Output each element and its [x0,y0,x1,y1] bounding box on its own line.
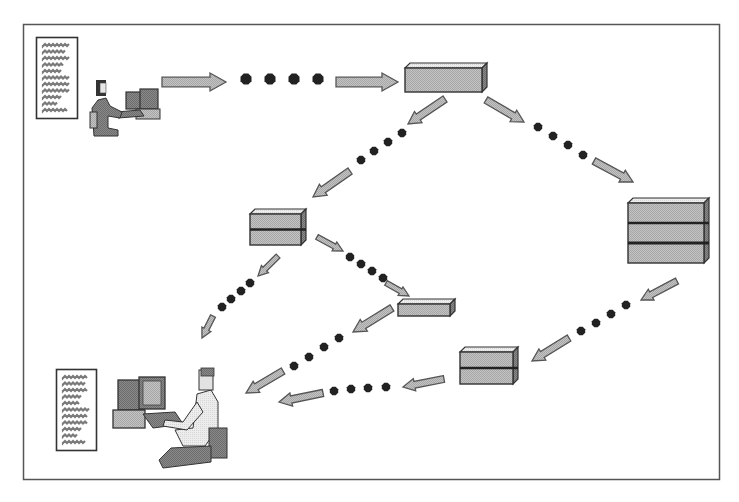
packet-dot-icon [335,334,343,342]
server-top-face [405,63,487,68]
packet-dot-icon [265,74,276,85]
packet-dot-icon [382,383,390,391]
router-right [628,198,709,263]
packet-dot-icon [607,310,615,318]
packet-dot-icon [370,147,378,155]
packet-dot-icon [622,301,630,309]
packet-dot-icon [347,385,355,393]
packet-dot-icon [364,384,372,392]
packet-dot-icon [357,156,365,164]
server-front-face [628,203,704,263]
monitor-icon [140,89,158,109]
packet-dot-icon [313,74,324,85]
server-top-face [250,209,306,214]
packet-dot-icon [579,151,587,159]
packet-dot-icon [564,141,572,149]
router-thin [398,299,455,316]
woman-face [100,83,106,93]
server-side-face [482,63,487,92]
server-front-face [405,68,482,92]
packet-dot-icon [357,260,365,268]
packet-dot-icon [534,123,542,131]
man-hair [201,368,214,376]
server-side-face [513,347,518,384]
computer-case-icon [113,410,145,428]
chair-icon [209,428,227,458]
router-mid-left [250,209,306,245]
packet-dot-icon [330,387,338,395]
packet-dot-icon [346,253,354,261]
router-lower [460,347,518,384]
packet-dot-icon [290,362,298,370]
packet-dot-icon [289,74,300,85]
packet-dot-icon [227,295,235,303]
monitor-screen [143,381,161,405]
packet-dot-icon [305,353,313,361]
packet-dot-icon [241,74,252,85]
server-top-face [398,299,455,304]
chair-icon [90,112,97,128]
server-front-face [398,304,450,316]
packet-dot-icon [384,138,392,146]
server-side-face [301,209,306,245]
receiver-document [57,370,97,451]
server-side-face [704,198,709,263]
server-top-face [460,347,518,352]
packet-dot-icon [218,303,226,311]
packet-dot-icon [379,274,387,282]
packet-dot-icon [398,129,406,137]
packet-dot-icon [246,279,254,287]
sender-document [37,38,78,119]
packet-dot-icon [592,319,600,327]
server-top-face [628,198,709,203]
packet-dot-icon [237,287,245,295]
router-top [405,63,487,92]
packet-dot-icon [320,343,328,351]
packet-dot-icon [577,327,585,335]
packet-dot-icon [549,132,557,140]
packet-dot-icon [368,267,376,275]
network-diagram [0,0,739,502]
